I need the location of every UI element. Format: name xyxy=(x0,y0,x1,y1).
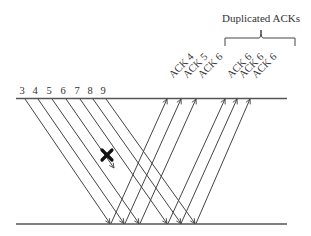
packet-label: 5 xyxy=(46,85,51,96)
duplicated-acks-label: Duplicated ACKs xyxy=(222,12,300,24)
packet-label: 6 xyxy=(60,85,65,96)
duplicate-ack-line xyxy=(181,99,237,224)
ack-transmissions xyxy=(111,99,250,224)
duplicate-acks-brace xyxy=(225,30,295,46)
ack-line xyxy=(125,99,181,224)
packet-label: 7 xyxy=(74,85,79,96)
packet-sequence-labels: 3456789 xyxy=(19,85,105,96)
duplicate-ack-line xyxy=(168,99,225,224)
packet-label: 8 xyxy=(87,85,92,96)
lost-packet-line xyxy=(66,99,114,168)
tcp-duplicate-ack-diagram: 3456789 ACK 4ACK 5ACK 6ACK 6ACK 6ACK 6 D… xyxy=(0,0,311,236)
packet-line xyxy=(25,99,110,224)
packet-label: 3 xyxy=(19,85,24,96)
packet-line xyxy=(80,99,167,224)
ack-labels: ACK 4ACK 5ACK 6ACK 6ACK 6ACK 6 xyxy=(167,50,279,80)
packet-label: 9 xyxy=(100,85,105,96)
duplicate-ack-line xyxy=(196,99,250,224)
packet-line xyxy=(52,99,139,224)
packet-transmissions xyxy=(25,99,195,224)
packet-label: 4 xyxy=(32,85,38,96)
